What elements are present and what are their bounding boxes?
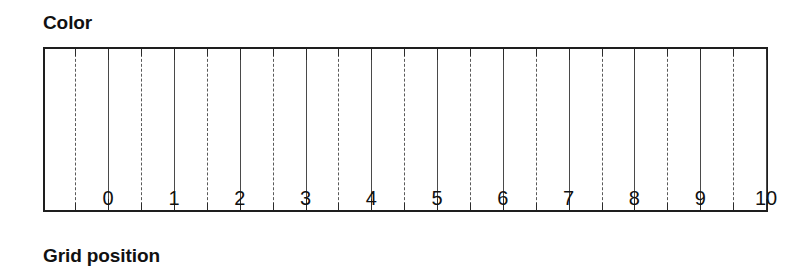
gridline-major-4 [371, 49, 372, 210]
gridline-major-2 [240, 49, 241, 210]
gridline-minor-0_5 [141, 49, 142, 210]
x-tick-label: 0 [103, 188, 114, 208]
gridline-minor-5_5 [470, 49, 471, 210]
gridline-major-6 [503, 49, 504, 210]
tick-bottom-minor [273, 203, 274, 210]
tick-bottom-minor [338, 203, 339, 210]
tick-top-minor [273, 49, 274, 56]
gridline-major-9 [700, 49, 701, 210]
tick-bottom-minor [733, 203, 734, 210]
gridline-major-8 [634, 49, 635, 210]
tick-top-minor [141, 49, 142, 56]
gridline-minor-2_5 [273, 49, 274, 210]
tick-top-major [174, 49, 175, 60]
tick-top-major [634, 49, 635, 60]
tick-top-minor [338, 49, 339, 56]
plot-area: 012345678910 [45, 49, 766, 210]
x-tick-label: 5 [432, 188, 443, 208]
tick-top-major [306, 49, 307, 60]
gridline-major-0 [108, 49, 109, 210]
tick-bottom-minor [141, 203, 142, 210]
gridline-major-3 [306, 49, 307, 210]
gridline-minor-7_5 [602, 49, 603, 210]
x-tick-label: 6 [497, 188, 508, 208]
gridline-minor-9_5 [733, 49, 734, 210]
tick-top-minor [667, 49, 668, 56]
tick-top-major [108, 49, 109, 60]
tick-top-minor [75, 49, 76, 56]
gridline-minor-neg0_5 [75, 49, 76, 210]
tick-top-minor [470, 49, 471, 56]
tick-top-major [503, 49, 504, 60]
tick-top-minor [602, 49, 603, 56]
tick-top-major [766, 49, 767, 60]
x-tick-label: 10 [755, 188, 777, 208]
tick-top-minor [536, 49, 537, 56]
x-tick-label: 7 [563, 188, 574, 208]
gridline-major-1 [174, 49, 175, 210]
gridline-minor-6_5 [536, 49, 537, 210]
tick-bottom-minor [75, 203, 76, 210]
gridline-minor-3_5 [338, 49, 339, 210]
tick-bottom-minor [207, 203, 208, 210]
tick-top-major [240, 49, 241, 60]
gridline-major-7 [569, 49, 570, 210]
gridline-minor-1_5 [207, 49, 208, 210]
x-tick-label: 2 [234, 188, 245, 208]
x-tick-label: 3 [300, 188, 311, 208]
x-tick-label: 1 [168, 188, 179, 208]
tick-top-minor [207, 49, 208, 56]
top-axis-title: Color [43, 13, 92, 32]
tick-top-major [569, 49, 570, 60]
gridline-major-10 [766, 49, 767, 210]
x-tick-label: 9 [695, 188, 706, 208]
tick-bottom-minor [602, 203, 603, 210]
x-tick-label: 8 [629, 188, 640, 208]
tick-bottom-minor [404, 203, 405, 210]
plot-frame: 012345678910 [43, 47, 768, 212]
gridline-minor-4_5 [404, 49, 405, 210]
bottom-axis-title: Grid position [43, 246, 160, 265]
gridline-major-5 [437, 49, 438, 210]
tick-top-major [437, 49, 438, 60]
tick-top-major [371, 49, 372, 60]
gridline-minor-8_5 [667, 49, 668, 210]
tick-bottom-minor [667, 203, 668, 210]
grid-position-figure: Color 012345678910 Grid position [0, 0, 806, 275]
tick-bottom-minor [470, 203, 471, 210]
tick-bottom-minor [536, 203, 537, 210]
tick-top-minor [404, 49, 405, 56]
x-tick-label: 4 [366, 188, 377, 208]
tick-top-minor [733, 49, 734, 56]
tick-top-major [700, 49, 701, 60]
